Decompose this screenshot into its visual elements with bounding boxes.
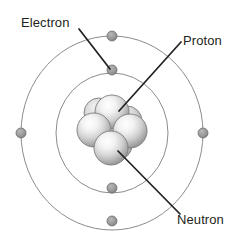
- electron-inner-bottom: [107, 183, 117, 193]
- leader-line-neutron: [118, 151, 180, 214]
- nucleon-bottom: [94, 131, 128, 165]
- leader-line-electron: [79, 29, 110, 69]
- electron-outer-left: [16, 128, 26, 138]
- label-electron: Electron: [21, 15, 70, 30]
- label-proton: Proton: [183, 33, 222, 48]
- electron-outer-right: [198, 128, 208, 138]
- label-neutron: Neutron: [177, 212, 224, 227]
- leader-line-proton: [119, 42, 181, 111]
- atom-structure-diagram: Electron Proton Neutron: [0, 0, 235, 238]
- electron-outer-top: [107, 31, 117, 41]
- electron-outer-bottom: [107, 216, 117, 226]
